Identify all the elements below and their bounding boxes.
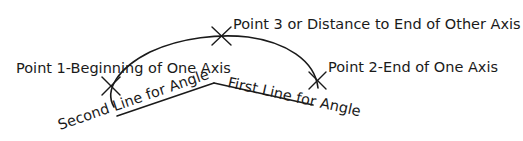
second-line-label: Second Line for Angle [56,66,211,133]
first-line-label: First Line for Angle [226,74,362,119]
ellipse-construction-diagram: Point 1-Beginning of One Axis Point 3 or… [0,0,523,141]
point3-label: Point 3 or Distance to End of Other Axis [233,16,521,32]
point2-label: Point 2-End of One Axis [328,59,498,75]
